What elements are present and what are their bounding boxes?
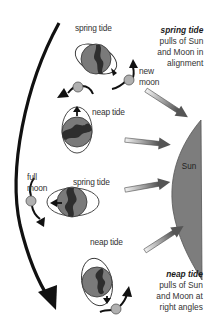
note-neap-tide: neap tide pulls of Sun and Moon at right… [157, 268, 203, 312]
note-neap-tide-title: neap tide [157, 268, 203, 279]
note-neap-tide-line2: and Moon at [157, 290, 203, 301]
earth-spring-tide-middle [47, 187, 99, 217]
label-new-moon-line1: new [139, 65, 154, 76]
note-spring-tide-line2: and Moon in [157, 46, 203, 57]
label-spring-tide-middle: spring tide [73, 176, 110, 187]
note-neap-tide-line3: right angles [157, 301, 203, 312]
moon-new [112, 59, 138, 89]
note-spring-tide-line1: pulls of Sun [157, 35, 203, 46]
label-full-moon-line1: full [27, 171, 37, 182]
ray-arrow-1 [143, 85, 191, 122]
earth-neap-tide-upper [62, 106, 92, 153]
earth-neap-tide-lower [77, 255, 116, 308]
ray-arrow-2 [124, 134, 171, 151]
label-full-moon-line2: moon [27, 182, 47, 193]
label-new-moon-line2: moon [139, 76, 159, 87]
orbit-direction-arrow [16, 23, 59, 310]
label-new-moon: new moon [139, 65, 159, 87]
label-neap-tide-lower: neap tide [90, 236, 123, 247]
label-neap-tide-upper: neap tide [92, 106, 125, 117]
ray-arrow-3 [124, 176, 171, 196]
label-full-moon: full moon [27, 171, 47, 193]
note-spring-tide-line3: alignment [157, 57, 203, 68]
earth-spring-tide-top [71, 38, 122, 80]
note-spring-tide-title: spring tide [157, 24, 203, 35]
label-spring-tide-top: spring tide [75, 22, 112, 33]
sun [172, 120, 202, 280]
sun-label: Sun [182, 161, 196, 171]
note-spring-tide: spring tide pulls of Sun and Moon in ali… [157, 24, 203, 68]
moon-first-quarter [57, 82, 93, 98]
note-neap-tide-line1: pulls of Sun [157, 279, 203, 290]
